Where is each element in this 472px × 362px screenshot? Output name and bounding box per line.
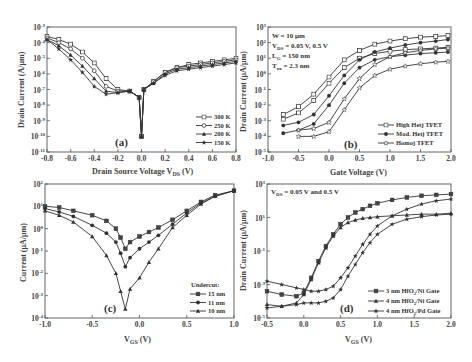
tick-label: -1.0 <box>39 320 51 329</box>
x-axis-label-d: VGS (V) <box>345 335 372 345</box>
tick-label: 0.5 <box>355 154 365 163</box>
tick-label: -0.5 <box>261 320 273 329</box>
y-ticks-c: 10210110010-110-210-310-4 <box>31 180 48 323</box>
annotation-b: W = 10 μm VDS = 0.05 V, 0.5 V LG = 150 n… <box>272 32 328 71</box>
annotation-d: VDS = 0.05 V and 0.5 V <box>271 188 339 197</box>
tick-label: -1.0 <box>262 154 274 163</box>
x-ticks-c: -1.0-0.50.00.51.0 <box>39 315 239 329</box>
tick-label: 1.0 <box>385 154 395 163</box>
legend-d: 3 nm HfO2/Ni Gate4 nm HfO2/Ni Gate4 nm H… <box>368 287 441 316</box>
tick-label: 10-7 <box>33 86 45 95</box>
tick-label: 1.5 <box>410 320 420 329</box>
tick-label: 0.5 <box>336 320 346 329</box>
legend-entry: 4 nm HfO2/Pd Gate <box>386 307 441 316</box>
y-ticks-b: 10310210110010-110-210-310-410-5 <box>254 23 271 157</box>
x-axis-label-b: Gate Voltage (V) <box>330 168 387 177</box>
tick-label: 10-1 <box>254 86 266 95</box>
legend-entry: 15 nm <box>208 290 226 297</box>
tick-label: 0.0 <box>324 154 334 163</box>
tick-label: 1.0 <box>229 320 239 329</box>
y-axis-label-a: Drain Current (A/μm) <box>17 51 26 128</box>
panel-c: 10210110010-110-210-310-4 -1.0-0.50.00.5… <box>19 180 239 345</box>
tick-label: 10-8 <box>33 101 45 110</box>
annotation-vds: VDS = 0.05 V, 0.5 V <box>272 42 328 51</box>
tick-label: -0.5 <box>293 154 305 163</box>
tick-label: 10-5 <box>33 54 45 63</box>
tick-label: -0.4 <box>88 154 100 163</box>
tick-label: 10-3 <box>254 117 266 126</box>
legend-title-c: Undercut: <box>191 281 219 288</box>
tick-label: 10-2 <box>31 269 43 278</box>
tick-label: 10-6 <box>33 70 45 79</box>
legend-entry: 3 nm HfO2/Ni Gate <box>386 287 439 296</box>
tick-label: -0.5 <box>86 320 98 329</box>
panel-b: 10310210110010-110-210-310-410-5 -1.0-0.… <box>239 23 456 177</box>
tick-label: -0.6 <box>65 154 77 163</box>
tick-label: 101 <box>255 214 266 223</box>
tick-label: 10-3 <box>31 292 43 301</box>
tick-label: 10-3 <box>253 281 265 290</box>
plot-frame-c <box>45 184 234 318</box>
tick-label: 1.0 <box>373 320 383 329</box>
tick-label: 102 <box>256 39 267 48</box>
tick-label: 0.4 <box>184 154 194 163</box>
legend-entry: Mod. Hetj TFET <box>396 130 444 137</box>
legend-entry: Homoj TFET <box>396 139 434 146</box>
x-ticks-d: -0.50.00.51.01.52.0 <box>261 315 456 329</box>
tick-label: 0.6 <box>208 154 218 163</box>
x-ticks-a: -0.8-0.6-0.4-0.20.00.20.40.60.8 <box>41 149 241 163</box>
y-axis-label-d: Drain Current (μA/μm) <box>239 210 248 291</box>
data-series <box>267 199 451 291</box>
annotation-tox: Tox = 2.3 nm <box>272 62 310 71</box>
figure-canvas: 10-310-410-510-610-710-810-910-1010-11 -… <box>0 0 472 362</box>
x-axis-label-a: Drain Source Voltage VDS (V) <box>92 167 193 177</box>
panel-label-b: (b) <box>344 138 358 151</box>
tick-label: 2.0 <box>446 320 456 329</box>
tick-label: 101 <box>33 202 44 211</box>
data-series <box>267 194 451 296</box>
legend-entry: High Hetj TFET <box>396 121 443 128</box>
series-a <box>45 34 239 138</box>
tick-label: 10-10 <box>31 132 46 141</box>
tick-label: 10-4 <box>254 132 266 141</box>
annotation-width: W = 10 μm <box>272 32 305 40</box>
y-ticks-d: 10310110-110-310-5 <box>253 180 270 323</box>
annotation-lg: LG = 150 nm <box>272 52 310 61</box>
tick-label: 2.0 <box>446 154 456 163</box>
panel-d: 10310110-110-310-5 -0.50.00.51.01.52.0 V… <box>239 180 456 345</box>
legend-entry: 250 K <box>214 122 230 129</box>
tick-label: -0.2 <box>112 154 124 163</box>
legend-entry: 300 K <box>214 113 230 120</box>
legend-entry: 11 nm <box>208 299 225 306</box>
tick-label: 10-9 <box>33 117 45 126</box>
tick-label: 10-2 <box>254 101 266 110</box>
legend-a: 300 K250 K200 K150 K <box>196 113 230 146</box>
tick-label: 103 <box>255 180 266 189</box>
tick-label: -0.8 <box>41 154 53 163</box>
legend-b: High Hetj TFETMod. Hetj TFETHomoj TFET <box>378 121 444 146</box>
x-ticks-b: -1.0-0.50.00.51.01.52.0 <box>262 149 456 163</box>
legend-entry: 10 nm <box>208 307 226 314</box>
panel-label-d: (d) <box>340 302 354 315</box>
data-series <box>45 191 234 267</box>
tick-label: 100 <box>33 225 44 234</box>
x-axis-label-c: VGS (V) <box>124 335 151 345</box>
tick-label: 1.5 <box>416 154 426 163</box>
legend-entry: 200 K <box>214 130 230 137</box>
tick-label: 103 <box>256 23 267 32</box>
tick-label: 0.0 <box>299 320 309 329</box>
tick-label: 100 <box>256 70 267 79</box>
tick-label: 10-1 <box>253 247 265 256</box>
y-axis-label-b: Drain Current (μA/μm) <box>239 51 248 132</box>
tick-label: 102 <box>33 180 44 189</box>
tick-label: 0.0 <box>137 154 147 163</box>
tick-label: 0.8 <box>231 154 241 163</box>
tick-label: 101 <box>256 54 267 63</box>
legend-entry: 150 K <box>214 139 230 146</box>
panel-label-c: (c) <box>104 302 117 315</box>
tick-label: 10-3 <box>33 23 45 32</box>
panel-a: 10-310-410-510-610-710-810-910-1010-11 -… <box>17 23 241 177</box>
tick-label: 0.5 <box>182 320 192 329</box>
data-series <box>47 36 236 136</box>
tick-label: 10-4 <box>33 39 45 48</box>
